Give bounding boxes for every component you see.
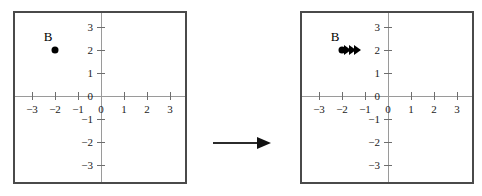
y-tick-label: −2 (368, 137, 380, 148)
y-tick (97, 50, 105, 51)
y-tick (384, 73, 392, 74)
motion-chevrons-icon (346, 45, 361, 55)
x-tick (124, 92, 125, 100)
y-tick (384, 50, 392, 51)
y-tick-label: 3 (375, 22, 381, 33)
x-tick (147, 92, 148, 100)
y-tick-label: −3 (368, 160, 380, 171)
x-tick-label: 2 (144, 104, 150, 115)
y-tick (97, 165, 105, 166)
x-tick (32, 92, 33, 100)
x-tick-label: −2 (336, 104, 348, 115)
y-tick-label: −1 (81, 114, 93, 125)
x-tick (319, 92, 320, 100)
y-tick (97, 119, 105, 120)
arrow-shaft (213, 142, 259, 144)
figure-canvas: −3−2−101233210−1−2−3B −3−2−101233210−1−2… (0, 0, 482, 196)
x-axis (15, 96, 185, 97)
x-tick (55, 92, 56, 100)
y-tick (384, 142, 392, 143)
y-axis (388, 13, 389, 182)
y-tick-label: 1 (88, 68, 94, 79)
x-tick-label: 0 (385, 104, 391, 115)
point-label-b: B (44, 30, 53, 43)
y-tick-label: 3 (88, 22, 94, 33)
x-tick (365, 92, 366, 100)
x-tick-label: −3 (313, 104, 325, 115)
chevron-right-icon (354, 45, 361, 55)
plot-area-after: −3−2−101233210−1−2−3B (302, 13, 472, 182)
y-tick (384, 119, 392, 120)
plot-area-before: −3−2−101233210−1−2−3B (15, 13, 185, 182)
grid-panel-after: −3−2−101233210−1−2−3B (300, 11, 474, 184)
x-tick (457, 92, 458, 100)
x-tick-label: −3 (26, 104, 38, 115)
y-tick (384, 27, 392, 28)
y-tick-label: 0 (88, 91, 94, 102)
x-tick (342, 92, 343, 100)
x-tick-label: 3 (167, 104, 173, 115)
y-tick-label: −2 (81, 137, 93, 148)
y-tick (97, 73, 105, 74)
x-tick-label: 0 (98, 104, 104, 115)
x-tick-label: 1 (121, 104, 127, 115)
x-tick-label: 1 (408, 104, 414, 115)
y-tick-label: 2 (375, 45, 381, 56)
point-label-b: B (331, 30, 340, 43)
y-axis (101, 13, 102, 182)
x-axis (302, 96, 472, 97)
x-tick (411, 92, 412, 100)
y-tick-label: −1 (368, 114, 380, 125)
x-tick (434, 92, 435, 100)
y-tick (384, 165, 392, 166)
y-tick-label: −3 (81, 160, 93, 171)
y-tick-label: 2 (88, 45, 94, 56)
data-point-b (339, 47, 346, 54)
y-tick-label: 1 (375, 68, 381, 79)
x-tick-label: −2 (49, 104, 61, 115)
x-tick (170, 92, 171, 100)
transition-arrow-icon (213, 136, 275, 150)
data-point-b (52, 47, 59, 54)
x-tick-label: 2 (431, 104, 437, 115)
y-tick (97, 27, 105, 28)
x-tick (78, 92, 79, 100)
y-tick (97, 142, 105, 143)
x-tick-label: 3 (454, 104, 460, 115)
grid-panel-before: −3−2−101233210−1−2−3B (13, 11, 187, 184)
arrow-head (257, 137, 271, 149)
y-tick-label: 0 (375, 91, 381, 102)
